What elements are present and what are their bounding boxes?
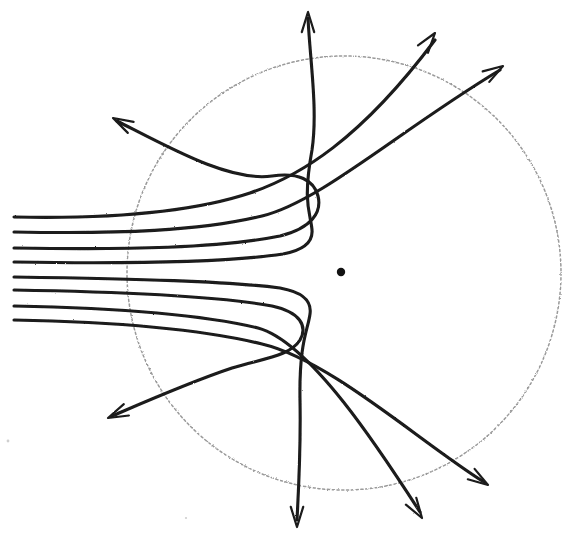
trajectory-moderate-deflection-lower — [14, 306, 420, 512]
paper-speck — [7, 440, 10, 443]
trajectory-small-deflection-upper — [14, 40, 435, 217]
nucleus-dot — [337, 268, 345, 276]
paper-speck-layer — [7, 440, 187, 520]
trajectory-small-deflection-lower — [14, 320, 484, 482]
trajectory-layer — [14, 18, 500, 520]
trajectory-moderate-deflection-upper — [14, 70, 500, 233]
paper-speck — [185, 517, 187, 519]
scattering-diagram-canvas — [0, 0, 568, 545]
arrowhead-layer — [108, 12, 503, 527]
trajectory-hairpin-lower-outer — [14, 290, 303, 416]
scattering-figure — [0, 0, 568, 545]
trajectory-hairpin-upper-inner — [14, 18, 314, 263]
